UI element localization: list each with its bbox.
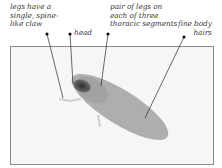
dot-legs xyxy=(106,32,109,35)
larva-illustration xyxy=(0,0,222,168)
dot-head xyxy=(68,32,71,35)
larva-body xyxy=(64,63,177,151)
leader-dots xyxy=(45,32,185,38)
leader-legs xyxy=(101,34,108,86)
leader-claw xyxy=(47,34,63,98)
leader-head xyxy=(70,34,73,84)
leader-hairs xyxy=(145,37,184,118)
dot-claw xyxy=(45,32,48,35)
dot-hairs xyxy=(182,35,185,38)
